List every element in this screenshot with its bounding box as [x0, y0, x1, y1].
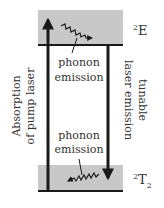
absorption-label-line1: Absorption — [10, 75, 23, 137]
lower-level-subscript: 2 — [147, 181, 152, 190]
upper-phonon-label-line1: phonon — [58, 56, 100, 69]
upper-phonon-label-line2: emission — [55, 71, 104, 84]
upper-level-label: 2E — [133, 23, 148, 38]
laser-emission-label-line1: tunable — [136, 79, 149, 121]
lower-level-symbol: T — [138, 172, 147, 187]
laser-emission-label-line2: laser emission — [122, 60, 135, 140]
energy-level-diagram: phonon emission phonon emission Absorpti… — [0, 0, 164, 208]
upper-level-symbol: E — [138, 23, 148, 38]
absorption-label-line2: of pump laser — [24, 67, 37, 145]
upper-level-band — [38, 10, 123, 45]
lower-phonon-label-line1: phonon — [58, 129, 100, 142]
lower-phonon-label-line2: emission — [55, 143, 104, 156]
lower-level-label: 2T2 — [133, 172, 152, 190]
